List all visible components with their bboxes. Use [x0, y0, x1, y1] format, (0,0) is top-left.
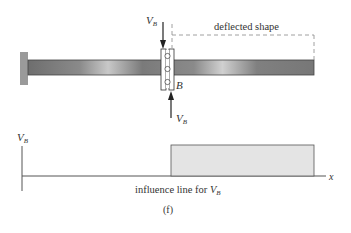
force-label-bottom: VB — [176, 112, 188, 126]
fixed-wall-support — [20, 52, 28, 85]
y-axis-label: VB — [17, 131, 29, 145]
figure-label: (f) — [163, 204, 173, 216]
diagram-canvas: VB VB B deflected shape VB x influence l… — [0, 0, 351, 233]
force-arrow-down — [160, 22, 166, 49]
roller-guide-support — [161, 49, 174, 90]
influence-line-caption: influence line for VB — [135, 184, 221, 197]
force-arrow-up — [168, 91, 174, 118]
influence-region — [171, 145, 314, 176]
deflected-shape-label: deflected shape — [214, 21, 279, 32]
support-label-b: B — [176, 79, 183, 91]
force-label-top: VB — [146, 14, 158, 28]
x-axis-label: x — [328, 171, 334, 182]
